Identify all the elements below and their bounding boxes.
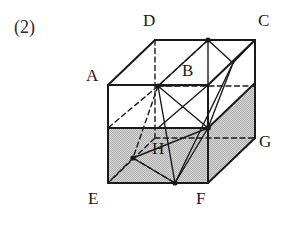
vertex-label-D: D [143,12,155,29]
node-top-apex [205,37,210,42]
vertex-label-A: A [86,67,98,84]
node-front-hub [205,125,211,131]
shaded-face-right-lower-band [208,83,255,183]
vertex-label-E: E [88,190,98,207]
vertex-label-H: H [152,140,164,157]
figure-canvas [0,0,289,226]
node-bottom [172,180,177,185]
vertex-label-G: G [259,133,271,150]
geometry-figure: (2) ABCDEFGH [0,0,289,226]
seg-topnode-to-mid [208,40,233,63]
node-B [155,83,160,88]
part-number-label: (2) [14,18,35,36]
edge-top-front-left [108,40,155,85]
vertex-label-F: F [196,190,205,207]
vertex-label-C: C [258,12,269,29]
vertex-label-B: B [182,62,193,79]
node-H [130,155,135,160]
